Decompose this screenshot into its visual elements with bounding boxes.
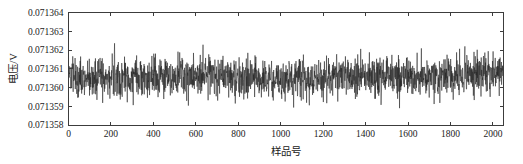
y-tick-label-0.071362: 0.071362 (28, 45, 64, 55)
voltage-noise-chart-figure: 0200400600800100012001400160018002000 0.… (0, 0, 523, 164)
y-tick-label-0.071360: 0.071360 (28, 83, 64, 93)
x-tick-label-1000: 1000 (271, 129, 290, 139)
x-tick-label-800: 800 (231, 129, 246, 139)
y-tick-label-0.071364: 0.071364 (28, 8, 64, 18)
x-tick-label-2000: 2000 (483, 129, 502, 139)
y-axis-title: 电压/V (7, 53, 19, 84)
x-tick-label-1800: 1800 (441, 129, 460, 139)
x-tick-label-1200: 1200 (314, 129, 333, 139)
y-tick-label-0.071358: 0.071358 (28, 120, 64, 130)
y-tick-label-0.071359: 0.071359 (28, 102, 64, 112)
y-tick-label-0.071361: 0.071361 (28, 64, 64, 74)
x-tick-label-400: 400 (146, 129, 161, 139)
x-tick-label-200: 200 (104, 129, 119, 139)
chart-canvas: 0200400600800100012001400160018002000 0.… (0, 0, 523, 164)
x-tick-label-0: 0 (66, 129, 71, 139)
y-tick-label-0.071363: 0.071363 (28, 27, 64, 37)
x-tick-label-1600: 1600 (399, 129, 418, 139)
x-tick-label-600: 600 (189, 129, 204, 139)
x-axis-title: 样品号 (271, 145, 301, 157)
x-tick-label-1400: 1400 (356, 129, 375, 139)
